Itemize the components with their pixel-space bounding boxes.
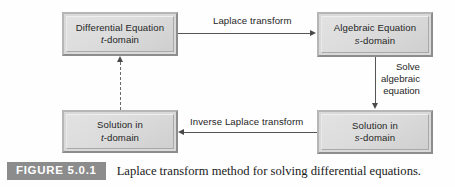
node-differential-equation-body: Differential Equation t-domain (66, 16, 174, 52)
figure-number-badge: FIGURE 5.0.1 (7, 162, 106, 180)
node-differential-equation: Differential Equation t-domain (62, 12, 178, 56)
node-algebraic-equation-line1: Algebraic Equation (334, 22, 416, 34)
domain-suffix: -domain (360, 35, 395, 46)
node-solution-t-domain-body: Solution in t-domain (66, 114, 174, 149)
node-differential-equation-line1: Differential Equation (76, 22, 164, 34)
node-solution-t-domain-line2: t-domain (101, 132, 139, 144)
arrow-right-icon (310, 30, 316, 36)
arrow-down-icon (372, 103, 378, 109)
edge-verification-dashed-line (120, 62, 121, 110)
edge-label-inverse-laplace-transform: Inverse Laplace transform (190, 116, 303, 127)
node-algebraic-equation-line2: s-domain (355, 35, 395, 47)
edge-solve-algebraic-equation-line (375, 57, 376, 104)
edge-laplace-transform-line (178, 33, 311, 34)
figure-caption-row: FIGURE 5.0.1 Laplace transform method fo… (7, 161, 451, 181)
edge-inverse-laplace-transform-line (184, 132, 317, 133)
node-solution-t-domain-line1: Solution in (97, 119, 143, 131)
edge-label-solve-line2: algebraic (381, 73, 420, 85)
arrow-left-icon (178, 129, 184, 135)
figure-container: Differential Equation t-domain Algebraic… (0, 0, 455, 187)
node-algebraic-equation-body: Algebraic Equation s-domain (321, 16, 429, 53)
domain-suffix: -domain (104, 34, 139, 45)
domain-suffix: -domain (360, 132, 395, 143)
arrow-up-icon (117, 56, 123, 62)
edge-label-laplace-transform: Laplace transform (213, 15, 292, 26)
node-algebraic-equation: Algebraic Equation s-domain (317, 12, 433, 57)
node-solution-s-domain-line2: s-domain (355, 132, 395, 144)
node-solution-s-domain: Solution in s-domain (317, 110, 433, 154)
edge-label-solve-algebraic-equation: Solve algebraic equation (381, 61, 420, 97)
node-differential-equation-line2: t-domain (101, 34, 139, 46)
figure-caption-text: Laplace transform method for solving dif… (117, 164, 421, 179)
node-solution-s-domain-line1: Solution in (352, 120, 398, 132)
edge-label-solve-line3: equation (381, 85, 420, 97)
node-solution-s-domain-body: Solution in s-domain (321, 114, 429, 150)
node-solution-t-domain: Solution in t-domain (62, 110, 178, 153)
domain-suffix: -domain (104, 132, 139, 143)
edge-label-solve-line1: Solve (381, 61, 420, 73)
